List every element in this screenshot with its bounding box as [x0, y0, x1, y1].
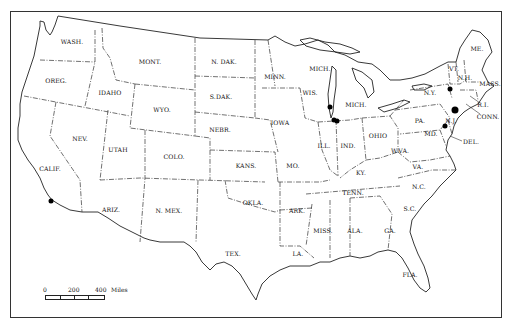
state-label: PA.	[415, 117, 425, 124]
state-label: ME.	[470, 45, 483, 52]
lake-huron	[352, 68, 374, 98]
state-label: UTAH	[108, 146, 127, 153]
state-label: W.VA.	[391, 147, 409, 154]
state-label: ALA.	[347, 227, 362, 234]
scale-tick-0: 0	[43, 286, 47, 293]
state-label: TEX.	[225, 250, 240, 257]
state-label: N.C.	[412, 183, 426, 190]
location-marker-philadelphia-area	[443, 124, 448, 129]
state-label: CALIF.	[39, 165, 61, 172]
state-label: N. DAK.	[211, 58, 237, 65]
state-label: S.C.	[404, 205, 417, 212]
state-label: N.J.	[445, 117, 456, 124]
lake-erie	[378, 100, 410, 112]
lake-superior	[300, 38, 360, 54]
location-marker-new-york-city	[452, 107, 459, 114]
lake-michigan	[328, 66, 336, 118]
state-label: MO.	[286, 162, 299, 169]
scale-bar: 0 200 400 Miles	[45, 286, 105, 300]
location-marker-wisconsin-lakeshore	[328, 105, 333, 110]
state-label: MICH.	[345, 101, 366, 108]
scale-ticks: 0 200 400 Miles	[45, 286, 105, 294]
del-leader	[450, 136, 462, 141]
state-label: COLO.	[163, 153, 184, 160]
state-label: VA.	[413, 163, 424, 170]
state-label: R.I.	[477, 101, 488, 108]
state-label: MONT.	[139, 58, 162, 65]
state-label: VT.	[449, 65, 459, 72]
scale-tick-200: 200	[68, 286, 79, 293]
state-label: FLA.	[402, 271, 417, 278]
state-label: KY.	[356, 169, 366, 176]
scale-tick-400: 400	[95, 286, 106, 293]
location-marker-southern-california	[49, 199, 54, 204]
state-label: S.DAK.	[210, 93, 233, 100]
state-label: CONN.	[477, 113, 500, 120]
state-label: ARK.	[289, 207, 305, 214]
state-label: NEBR.	[209, 126, 231, 133]
state-label: MICH.	[309, 65, 330, 72]
scale-bar-graphic	[45, 295, 105, 300]
state-label: TENN.	[342, 189, 364, 196]
location-marker-chicago-area-2	[335, 119, 340, 124]
state-label: GA.	[384, 227, 396, 234]
state-label: OHIO	[369, 132, 387, 139]
state-label: N. MEX.	[156, 207, 183, 214]
state-label: NEV.	[72, 135, 88, 142]
state-label: N.Y.	[424, 89, 437, 96]
state-label: LA.	[293, 250, 304, 257]
state-label: IDAHO	[99, 89, 122, 96]
state-label: MASS.	[479, 80, 500, 87]
state-label: KANS.	[236, 162, 257, 169]
us-outline	[18, 16, 494, 300]
scale-unit: Miles	[111, 286, 128, 293]
state-label: MD.	[424, 130, 437, 137]
state-label: ARIZ.	[102, 206, 120, 213]
state-label: MISS.	[313, 227, 332, 234]
state-label: IND.	[341, 142, 356, 149]
state-label: IOWA	[271, 119, 289, 126]
state-label: MINN.	[264, 73, 286, 80]
state-label: WASH.	[61, 38, 84, 45]
state-label: ILL.	[317, 142, 330, 149]
state-label: OREG.	[45, 77, 66, 84]
location-marker-central-new-york	[448, 87, 453, 92]
state-label: WIS.	[302, 89, 317, 96]
state-label: N.H.	[458, 74, 473, 81]
state-label: WYO.	[153, 106, 171, 113]
state-label: OKLA.	[243, 199, 264, 206]
state-label: DEL.	[463, 138, 479, 145]
